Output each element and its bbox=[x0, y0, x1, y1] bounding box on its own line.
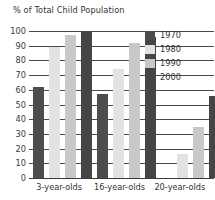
bar-16-year-olds-1970 bbox=[97, 94, 108, 178]
bar-chart: % of Total Child Population 100908070605… bbox=[0, 0, 215, 200]
y-axis-label-100: 100 bbox=[10, 26, 26, 36]
y-axis-label-90: 90 bbox=[16, 41, 26, 51]
y-axis-label-60: 60 bbox=[16, 85, 26, 95]
legend-item-1970[interactable]: 1970 bbox=[145, 28, 207, 42]
legend-swatch-icon-1990 bbox=[145, 59, 155, 68]
y-tick-mark-0 bbox=[210, 178, 214, 179]
chart-title: % of Total Child Population bbox=[13, 5, 125, 15]
bar-20-year-olds-1980 bbox=[177, 154, 188, 178]
y-axis-label-10: 10 bbox=[16, 158, 26, 168]
bar-3-year-olds-1990 bbox=[65, 35, 76, 178]
legend-label-1980: 1980 bbox=[160, 45, 181, 53]
bar-20-year-olds-1990 bbox=[193, 127, 204, 178]
x-axis-labels: 3-year-olds16-year-olds20-year-olds bbox=[29, 182, 210, 192]
bar-16-year-olds-1990 bbox=[129, 43, 140, 178]
legend-swatch-icon-1970 bbox=[145, 31, 155, 40]
x-axis-label-1: 3-year-olds bbox=[29, 182, 89, 192]
y-axis-label-0: 0 bbox=[21, 173, 26, 183]
legend-label-1990: 1990 bbox=[160, 59, 181, 67]
legend-item-1980[interactable]: 1980 bbox=[145, 42, 207, 56]
bar-16-year-olds-1980 bbox=[113, 69, 124, 178]
bar-20-year-olds-2000 bbox=[209, 96, 215, 178]
x-axis-label-3: 20-year-olds bbox=[150, 182, 210, 192]
x-axis-label-2: 16-year-olds bbox=[89, 182, 149, 192]
bar-group-1 bbox=[29, 31, 93, 178]
y-axis-label-70: 70 bbox=[16, 70, 26, 80]
legend-label-1970: 1970 bbox=[160, 31, 181, 39]
y-axis-label-50: 50 bbox=[16, 100, 26, 110]
y-axis-label-40: 40 bbox=[16, 114, 26, 124]
gridline-0 bbox=[29, 178, 210, 179]
y-axis-label-80: 80 bbox=[16, 55, 26, 65]
y-axis-label-30: 30 bbox=[16, 129, 26, 139]
legend-label-2000: 2000 bbox=[160, 73, 181, 81]
bar-3-year-olds-1970 bbox=[33, 87, 44, 178]
bar-3-year-olds-1980 bbox=[49, 47, 60, 178]
chart-legend: 1970198019902000 bbox=[145, 28, 207, 84]
y-axis-label-20: 20 bbox=[16, 144, 26, 154]
legend-item-1990[interactable]: 1990 bbox=[145, 56, 207, 70]
legend-swatch-icon-1980 bbox=[145, 45, 155, 54]
legend-swatch-icon-2000 bbox=[145, 73, 155, 82]
bar-3-year-olds-2000 bbox=[81, 32, 92, 178]
legend-item-2000[interactable]: 2000 bbox=[145, 70, 207, 84]
y-axis: 1009080706050403020100 bbox=[0, 31, 26, 178]
